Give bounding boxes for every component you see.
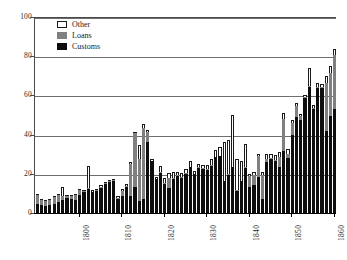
- bar-segment-customs-1825: [184, 174, 187, 213]
- bar-segment-other-1859: [329, 66, 332, 73]
- x-tick-label-1800: 1800: [83, 225, 91, 241]
- bar-segment-customs-1797: [65, 198, 68, 213]
- bar-segment-customs-1810: [121, 196, 124, 213]
- bar-1826: [189, 161, 192, 213]
- bar-1835: [227, 140, 230, 213]
- bar-1845: [269, 154, 272, 213]
- bar-segment-loans-1813: [133, 133, 136, 187]
- bar-segment-customs-1800: [78, 195, 81, 213]
- bar-segment-loans-1814: [138, 159, 141, 201]
- loans-swatch: [57, 32, 67, 39]
- bar-1829: [201, 165, 204, 213]
- y-tick-label-100: 100: [6, 13, 32, 21]
- bar-segment-customs-1804: [95, 191, 98, 213]
- bar-segment-customs-1801: [82, 192, 85, 213]
- bar-segment-customs-1828: [197, 168, 200, 213]
- bar-1802: [87, 166, 90, 213]
- bar-segment-other-1858: [325, 76, 328, 83]
- bar-1820: [163, 178, 166, 213]
- bar-1812: [129, 162, 132, 213]
- bar-1844: [265, 154, 268, 213]
- bar-segment-customs-1792: [44, 206, 47, 213]
- bar-segment-loans-1847: [278, 157, 281, 167]
- bar-1819: [159, 166, 162, 213]
- bar-1818: [155, 177, 158, 213]
- bar-segment-customs-1855: [312, 109, 315, 213]
- bar-segment-loans-1821: [167, 178, 170, 188]
- bar-1790: [36, 194, 39, 213]
- bar-segment-customs-1858: [325, 131, 328, 213]
- bar-1811: [125, 184, 128, 213]
- bar-segment-customs-1830: [206, 170, 209, 213]
- bar-1860: [333, 49, 336, 213]
- chart-legend: OtherLoansCustoms: [57, 19, 129, 52]
- bar-1798: [70, 195, 73, 213]
- bar-segment-loans-1842: [257, 156, 260, 177]
- bar-segment-customs-1791: [40, 205, 43, 213]
- bar-1833: [218, 147, 221, 213]
- bar-segment-loans-1843: [261, 175, 264, 199]
- bar-segment-customs-1840: [248, 187, 251, 213]
- bar-1792: [44, 200, 47, 213]
- bar-segment-customs-1842: [257, 177, 260, 213]
- y-tick-label-40: 40: [6, 131, 32, 139]
- bar-1824: [180, 173, 183, 213]
- customs-swatch: [57, 43, 67, 50]
- bar-1809: [116, 196, 119, 213]
- x-tick-label-1830: 1830: [210, 225, 218, 241]
- bar-segment-customs-1839: [244, 168, 247, 213]
- bar-1856: [316, 83, 319, 213]
- bar-1836: [231, 115, 234, 213]
- bar-1843: [261, 172, 264, 213]
- bar-1793: [48, 199, 51, 213]
- bar-segment-customs-1845: [269, 159, 272, 213]
- bar-1849: [286, 149, 289, 213]
- bar-segment-customs-1824: [180, 178, 183, 213]
- bar-1834: [223, 142, 226, 213]
- y-tick-label-80: 80: [6, 52, 32, 60]
- bar-segment-customs-1837: [235, 191, 238, 213]
- bar-1840: [248, 174, 251, 213]
- bar-1804: [95, 189, 98, 213]
- bar-segment-customs-1799: [74, 200, 77, 213]
- bar-1822: [172, 172, 175, 213]
- bar-1806: [104, 182, 107, 213]
- bar-1800: [78, 189, 81, 213]
- bar-1854: [308, 68, 311, 213]
- bar-segment-customs-1843: [261, 199, 264, 213]
- bar-segment-customs-1849: [286, 158, 289, 213]
- x-tick-label-1810: 1810: [125, 225, 133, 241]
- bar-segment-customs-1833: [218, 156, 221, 213]
- bar-1842: [257, 154, 260, 213]
- bar-segment-other-1802: [87, 166, 90, 188]
- bar-segment-loans-1860: [333, 55, 336, 108]
- bar-segment-customs-1854: [308, 87, 311, 213]
- bar-1801: [82, 190, 85, 213]
- legend-label-other: Other: [72, 20, 90, 29]
- bar-segment-customs-1822: [172, 179, 175, 213]
- bar-1830: [206, 165, 209, 213]
- bar-segment-customs-1796: [61, 200, 64, 213]
- bar-segment-loans-1848: [282, 119, 285, 151]
- bar-segment-customs-1841: [252, 185, 255, 213]
- bar-segment-customs-1811: [125, 187, 128, 213]
- bar-1850: [291, 120, 294, 213]
- bar-1855: [312, 105, 315, 213]
- bar-segment-customs-1821: [167, 188, 170, 213]
- bar-1823: [176, 172, 179, 213]
- bar-segment-other-1836: [231, 115, 234, 166]
- bar-segment-customs-1826: [189, 167, 192, 213]
- x-tick-mark-1840: [249, 213, 250, 217]
- bar-1839: [244, 144, 247, 213]
- legend-item-customs: Customs: [57, 41, 129, 51]
- bar-1797: [65, 195, 68, 213]
- x-axis: 1800181018201830184018501860: [0, 213, 347, 260]
- bar-segment-customs-1838: [240, 181, 243, 213]
- x-tick-mark-1830: [206, 213, 207, 217]
- bar-segment-other-1832: [214, 150, 217, 157]
- bar-1852: [299, 114, 302, 213]
- bar-segment-customs-1812: [129, 196, 132, 213]
- x-tick-label-1860: 1860: [338, 225, 346, 241]
- bar-segment-customs-1836: [231, 167, 234, 213]
- x-tick-mark-1820: [164, 213, 165, 217]
